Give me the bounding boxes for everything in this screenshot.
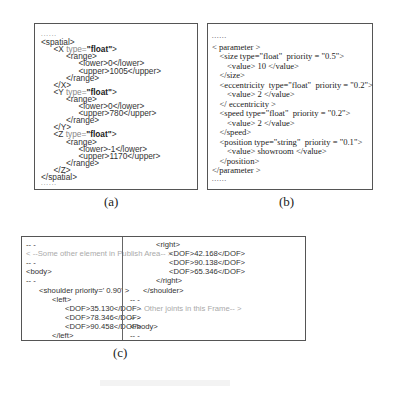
code-line: <shoulder priority=' 0.90' > xyxy=(39,287,129,295)
code-line: -- - xyxy=(26,259,36,267)
code-line: <DOF>90.138</DOF> xyxy=(169,259,245,267)
panel-c-body-xml: -- -< --Some other element in Publish Ar… xyxy=(21,236,306,341)
code-line: ...... xyxy=(41,180,57,186)
code-line: <DOF>42.168</DOF> xyxy=(169,250,245,258)
panel-b-label: (b) xyxy=(279,194,294,210)
code-line: </body> xyxy=(130,323,158,331)
code-line: < parameter > xyxy=(212,43,260,52)
code-line: <value> 2 </value> xyxy=(227,90,295,99)
code-line: <speed type="float" priority = "0.2"> xyxy=(220,109,351,118)
code-line: </shoulder> xyxy=(143,287,184,295)
code-line: < --Some other element in Publish Area--… xyxy=(26,250,172,258)
panel-a-spatial-xml: ......<spatial><X type="float"><range><l… xyxy=(34,23,198,190)
panel-c-divider xyxy=(122,237,123,340)
code-line: <value> 10 </value> xyxy=(227,62,299,71)
code-line: <left> xyxy=(52,296,71,304)
code-line: ...... xyxy=(212,176,227,182)
panel-a-label: (a) xyxy=(104,194,118,210)
code-line: -- - xyxy=(130,332,140,340)
code-line: <eccentricity type="float" priority = "0… xyxy=(220,81,373,90)
code-line: < -- Other joints in this Frame-- > xyxy=(130,305,242,313)
panel-b-parameter-xml: ......< parameter ><size type="float" pr… xyxy=(207,23,373,190)
code-line: <DOF>65.346</DOF> xyxy=(169,268,245,276)
code-line: </speed> xyxy=(220,128,252,137)
code-line: <position type="string" priority = "0.1"… xyxy=(220,138,363,147)
code-line: -- - xyxy=(26,277,36,285)
code-line: </ eccentricity > xyxy=(220,100,276,109)
code-line: ...... xyxy=(212,33,227,39)
code-line: </left> xyxy=(52,332,73,340)
code-line: <value> showroom </value> xyxy=(227,147,327,156)
code-line: </size> xyxy=(220,71,245,80)
code-line: -- - xyxy=(130,314,140,322)
code-line: </right> xyxy=(156,277,182,285)
code-line: -- - xyxy=(130,296,140,304)
figure-caption-faint xyxy=(100,380,230,386)
code-line: </position> xyxy=(220,157,260,166)
code-line: </parameter > xyxy=(212,166,261,175)
code-line: <size type="float" priority = "0.5"> xyxy=(220,52,345,61)
code-line: <right> xyxy=(156,241,180,249)
code-line: <value> 2 </value> xyxy=(227,119,295,128)
code-line: <body> xyxy=(26,268,52,276)
code-line: ...... xyxy=(41,31,57,37)
code-line: -- - xyxy=(26,241,36,249)
panel-c-label: (c) xyxy=(113,345,127,361)
